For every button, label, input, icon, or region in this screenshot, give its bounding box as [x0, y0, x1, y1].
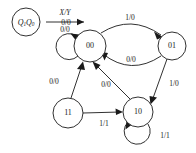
legend-group: Q1Q0 X/Y 0/0: [12, 8, 84, 36]
state-label-01: 01: [168, 41, 176, 50]
transition-label-00-to-00: 0/0: [61, 18, 71, 27]
legend-sub-low: 0: [32, 21, 35, 27]
edge-01-to-10-path: [152, 59, 167, 101]
state-label-00: 00: [86, 41, 94, 50]
state-label-11: 11: [64, 108, 72, 117]
transition-label-11-to-10: 1/1: [99, 119, 109, 128]
transition-01-to-10: 1/0: [150, 59, 180, 105]
transition-label-10-to-10: 1/1: [160, 131, 170, 140]
state-node-10[interactable]: 10: [123, 97, 153, 127]
state-node-01[interactable]: 01: [158, 32, 186, 60]
arrow-head-11-to-10-icon: [116, 109, 124, 116]
transition-00-to-01: 1/0: [101, 13, 163, 40]
edge-00-to-01-path: [101, 24, 161, 35]
transition-label-01-to-10: 1/0: [169, 79, 179, 88]
transition-11-to-00: 0/0: [49, 62, 85, 99]
transition-label-11-to-00: 0/0: [49, 77, 59, 86]
edge-11-to-00-path: [71, 65, 82, 98]
edge-11-to-10-path: [83, 112, 120, 113]
transition-10-to-00: 0/0: [93, 62, 131, 100]
legend-arrow-head-icon: [77, 19, 84, 25]
fsm-canvas: Q1Q0 X/Y 0/0 0/0 1/0 0/0: [0, 0, 196, 153]
state-node-11[interactable]: 11: [53, 98, 83, 128]
state-machine-diagram: Q1Q0 X/Y 0/0 0/0 1/0 0/0: [0, 0, 196, 153]
state-label-10: 10: [134, 107, 142, 116]
transition-label-00-to-01: 1/0: [125, 13, 135, 22]
transition-label-10-to-00: 0/0: [101, 80, 111, 89]
state-node-00[interactable]: 00: [74, 30, 106, 62]
transition-11-to-10: 1/1: [83, 109, 123, 128]
transition-label-01-to-00: 0/0: [126, 55, 136, 64]
transition-01-to-00: 0/0: [101, 52, 161, 66]
arrow-head-11-to-00-icon: [77, 62, 85, 71]
legend-arrow-label-top: X/Y: [59, 8, 72, 17]
